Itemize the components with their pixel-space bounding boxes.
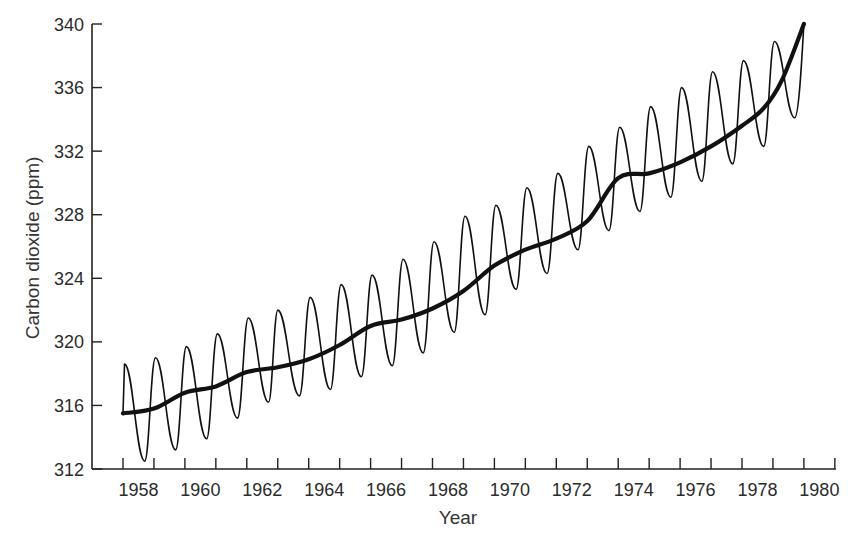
x-tick-label: 1972 — [552, 480, 592, 500]
x-tick-label: 1976 — [676, 480, 716, 500]
x-tick-label: 1964 — [304, 480, 344, 500]
x-axis-title: Year — [439, 507, 478, 528]
x-tick-label: 1974 — [614, 480, 654, 500]
series-layer — [123, 24, 804, 461]
x-axis: 1958196019621964196619681970197219741976… — [92, 458, 839, 500]
x-tick-label: 1980 — [799, 480, 839, 500]
x-tick-label: 1968 — [428, 480, 468, 500]
y-tick-label: 324 — [54, 269, 84, 289]
x-tick-label: 1978 — [737, 480, 777, 500]
y-tick-label: 316 — [54, 396, 84, 416]
y-tick-label: 340 — [54, 15, 84, 35]
y-tick-label: 332 — [54, 142, 84, 162]
y-axis: 312316320324328332336340 — [54, 15, 102, 480]
y-tick-label: 336 — [54, 78, 84, 98]
y-tick-label: 312 — [54, 460, 84, 480]
y-tick-label: 320 — [54, 332, 84, 352]
x-tick-label: 1958 — [118, 480, 158, 500]
y-tick-label: 328 — [54, 205, 84, 225]
x-tick-label: 1970 — [490, 480, 530, 500]
seasonal-line — [123, 24, 804, 461]
x-tick-label: 1966 — [366, 480, 406, 500]
y-axis-title: Carbon dioxide (ppm) — [22, 157, 43, 340]
x-tick-label: 1960 — [180, 480, 220, 500]
x-tick-label: 1962 — [242, 480, 282, 500]
co2-line-chart: 312316320324328332336340 195819601962196… — [0, 0, 852, 540]
